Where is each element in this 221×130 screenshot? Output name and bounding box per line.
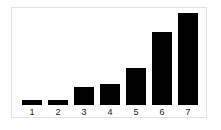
bar-4: [100, 84, 120, 105]
x-tick-label-2: 2: [48, 106, 68, 118]
x-tick-label-3: 3: [74, 106, 94, 118]
bar-chart-figure: 1234567: [0, 0, 221, 130]
bar-3: [74, 87, 94, 105]
bar-5: [126, 68, 146, 105]
bar-6: [152, 32, 172, 105]
bar-series: [11, 8, 207, 105]
bar-1: [22, 100, 42, 105]
x-tick-label-1: 1: [22, 106, 42, 118]
plot-area: [11, 8, 207, 105]
x-tick-label-6: 6: [152, 106, 172, 118]
x-tick-label-5: 5: [126, 106, 146, 118]
x-axis-tick-labels: 1234567: [11, 106, 207, 118]
x-tick-label-4: 4: [100, 106, 120, 118]
x-tick-label-7: 7: [178, 106, 198, 118]
bar-7: [178, 13, 198, 105]
bar-2: [48, 100, 68, 105]
